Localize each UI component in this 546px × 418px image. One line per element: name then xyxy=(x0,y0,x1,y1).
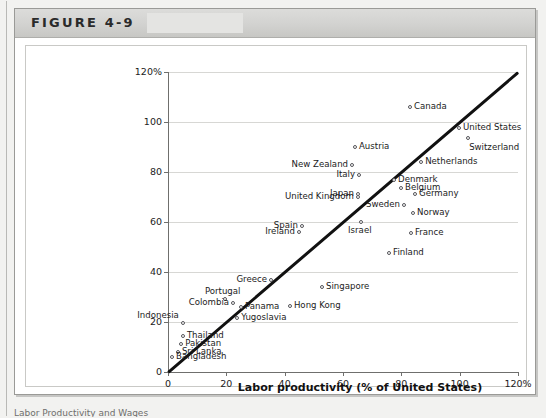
data-point-label: Portugal xyxy=(205,287,241,296)
data-point-marker[interactable] xyxy=(288,304,292,308)
gridline-y-40 xyxy=(168,272,518,273)
data-point-marker[interactable] xyxy=(419,160,423,164)
x-axis-title: Labor productivity (% of United States) xyxy=(195,381,525,394)
y-tick-100 xyxy=(164,122,168,123)
data-point-label: Italy xyxy=(336,170,355,179)
scatter-plot: 020406080100120%020406080100120%CanadaUn… xyxy=(26,46,526,386)
figure-header-bar: FIGURE 4-9 xyxy=(15,9,535,38)
data-point-marker[interactable] xyxy=(392,178,396,182)
data-point-marker[interactable] xyxy=(409,231,413,235)
data-point-label: Greece xyxy=(236,275,267,284)
data-point-marker[interactable] xyxy=(399,186,403,190)
y-tick-label-100: 100 xyxy=(124,116,162,127)
y-tick-label-40: 40 xyxy=(124,266,162,277)
data-point-label: Austria xyxy=(359,142,389,151)
data-point-label: France xyxy=(415,228,444,237)
y-tick-label-80: 80 xyxy=(124,166,162,177)
x-tick-120 xyxy=(518,372,519,376)
data-point-label: Colombia xyxy=(189,298,229,307)
data-point-label: Netherlands xyxy=(425,157,477,166)
data-point-marker[interactable] xyxy=(356,195,360,199)
data-point-label: Panama xyxy=(245,302,279,311)
data-point-label: Hong Kong xyxy=(294,301,341,310)
data-point-marker[interactable] xyxy=(297,230,301,234)
data-point-label: Ireland xyxy=(265,227,295,236)
data-point-label: Germany xyxy=(419,189,459,198)
y-axis-line xyxy=(168,72,169,372)
data-point-marker[interactable] xyxy=(235,316,239,320)
data-point-label: Indonesia xyxy=(137,311,179,320)
x-tick-100 xyxy=(460,372,461,376)
data-point-marker[interactable] xyxy=(320,285,324,289)
data-point-marker[interactable] xyxy=(170,355,174,359)
data-point-marker[interactable] xyxy=(457,126,461,130)
data-point-marker[interactable] xyxy=(231,301,235,305)
x-tick-20 xyxy=(226,372,227,376)
data-point-marker[interactable] xyxy=(181,321,185,325)
y-tick-label-60: 60 xyxy=(124,216,162,227)
y-tick-label-120: 120% xyxy=(124,66,162,77)
data-point-marker[interactable] xyxy=(387,251,391,255)
data-point-label: Canada xyxy=(414,102,447,111)
figure-caption-partial: Labor Productivity and Wages xyxy=(14,408,344,417)
data-point-marker[interactable] xyxy=(359,220,363,224)
data-point-label: Switzerland xyxy=(469,143,519,152)
page-margin-rule xyxy=(6,1,7,416)
data-point-marker[interactable] xyxy=(350,163,354,167)
data-point-marker[interactable] xyxy=(402,203,406,207)
data-point-label: Finland xyxy=(393,248,424,257)
data-point-label: United States xyxy=(463,123,521,132)
data-point-label: New Zealand xyxy=(292,160,348,169)
data-point-label: Singapore xyxy=(326,282,369,291)
y-tick-120 xyxy=(164,72,168,73)
data-point-marker[interactable] xyxy=(466,136,470,140)
data-point-marker[interactable] xyxy=(411,211,415,215)
y-tick-label-0: 0 xyxy=(124,366,162,377)
figure-label: FIGURE 4-9 xyxy=(31,15,135,30)
y-tick-80 xyxy=(164,172,168,173)
data-point-label: Norway xyxy=(417,208,450,217)
y-tick-60 xyxy=(164,222,168,223)
x-tick-60 xyxy=(343,372,344,376)
x-tick-80 xyxy=(401,372,402,376)
data-point-label: Israel xyxy=(348,226,372,235)
data-point-label: Yugoslavia xyxy=(241,313,286,322)
data-point-label: United Kingdom xyxy=(285,192,354,201)
data-point-marker[interactable] xyxy=(413,192,417,196)
data-point-label: Bangladesh xyxy=(176,352,226,361)
x-tick-40 xyxy=(285,372,286,376)
y-tick-20 xyxy=(164,322,168,323)
data-point-marker[interactable] xyxy=(353,145,357,149)
figure-page: FIGURE 4-9 Relative wage(% of UnitedStat… xyxy=(0,0,546,418)
x-tick-label-0: 0 xyxy=(146,378,190,389)
data-point-marker[interactable] xyxy=(408,105,412,109)
figure-box: FIGURE 4-9 Relative wage(% of UnitedStat… xyxy=(14,8,536,395)
data-point-label: Sweden xyxy=(366,200,400,209)
data-point-marker[interactable] xyxy=(357,173,361,177)
gridline-y-20 xyxy=(168,322,518,323)
gridline-y-120 xyxy=(168,72,518,73)
plot-panel: 020406080100120%020406080100120%CanadaUn… xyxy=(25,45,527,387)
header-swatch xyxy=(147,13,243,33)
data-point-marker[interactable] xyxy=(300,224,304,228)
y-tick-40 xyxy=(164,272,168,273)
